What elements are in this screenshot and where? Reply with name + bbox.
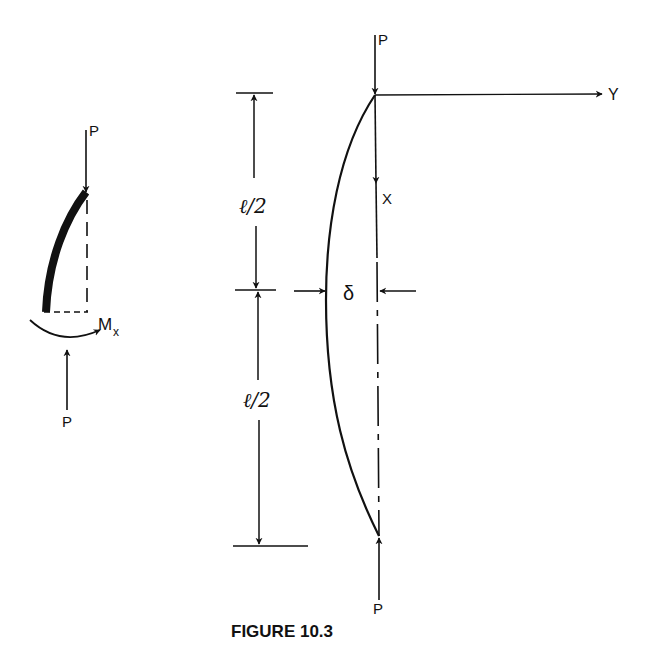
top-load-label: P — [378, 31, 388, 48]
column-centerline — [377, 262, 379, 536]
bottom-load-label: P — [373, 600, 383, 617]
bottom-load-label: P — [62, 413, 72, 430]
moment-arrow — [30, 320, 100, 337]
upper-half-length-label: ℓ/2 — [239, 194, 267, 218]
deflection-label: δ — [343, 282, 354, 304]
main-column: P Y X P δ ℓ/2 ℓ/2 — [233, 31, 619, 617]
x-axis-line — [376, 183, 377, 258]
y-axis-label: Y — [608, 86, 619, 103]
moment-subscript: x — [113, 325, 119, 339]
x-axis-arrow — [375, 95, 376, 183]
moment-label: M — [98, 315, 112, 334]
top-load-label: P — [89, 122, 99, 139]
deflected-segment — [46, 192, 86, 312]
deflected-column-curve — [326, 95, 379, 536]
lower-half-length-label: ℓ/2 — [243, 388, 271, 412]
column-buckling-diagram: P M x P P Y X P δ — [0, 0, 647, 662]
free-body-detail: P M x P — [30, 122, 119, 430]
x-axis-label: X — [382, 190, 392, 207]
figure-caption: FIGURE 10.3 — [231, 622, 333, 641]
y-axis-arrow — [375, 94, 602, 95]
